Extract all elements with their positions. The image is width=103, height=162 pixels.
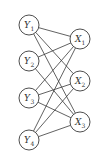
edge-y1-x1 (39, 28, 71, 37)
node-subscript: 1 (82, 39, 86, 46)
edge-y2-x3 (35, 69, 73, 115)
node-y2: Y2 (19, 51, 39, 71)
bipartite-diagram: Y1Y2Y3Y4X1X2X3 (0, 0, 103, 162)
node-subscript: 3 (82, 122, 86, 129)
node-x3: X3 (70, 112, 90, 132)
node-x2: X2 (70, 71, 90, 91)
edge-y4-x1 (34, 48, 76, 131)
node-x1: X1 (70, 29, 90, 49)
node-subscript: 2 (82, 81, 86, 88)
edge-y4-x3 (38, 125, 70, 136)
node-subscript: 2 (31, 61, 35, 68)
node-subscript: 4 (31, 140, 35, 147)
node-subscript: 3 (31, 98, 35, 105)
node-y4: Y4 (19, 130, 39, 150)
node-y3: Y3 (19, 88, 39, 108)
nodes-group: Y1Y2Y3Y4X1X2X3 (19, 15, 90, 150)
node-y1: Y1 (19, 15, 39, 35)
node-subscript: 1 (31, 25, 35, 32)
edges-group (34, 28, 76, 137)
diagram-svg: Y1Y2Y3Y4X1X2X3 (0, 0, 103, 162)
edge-y4-x2 (36, 89, 74, 133)
